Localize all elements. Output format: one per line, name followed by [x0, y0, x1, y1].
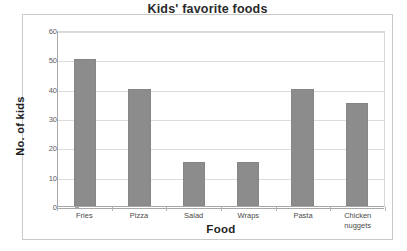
bar — [183, 162, 205, 206]
y-tick-label: 50 — [29, 56, 57, 65]
chart-title: Kids' favorite foods — [22, 2, 393, 16]
x-axis-title: Food — [57, 223, 385, 235]
bar-slot — [167, 32, 221, 206]
bar — [128, 89, 150, 206]
bar-slot — [112, 32, 166, 206]
bar — [237, 162, 259, 206]
y-tick-label: 10 — [29, 173, 57, 182]
bar-slot — [275, 32, 329, 206]
plot-area — [57, 31, 385, 207]
y-tick-label: 60 — [29, 27, 57, 36]
bar-slot — [221, 32, 275, 206]
y-tick-label: 0 — [29, 203, 57, 212]
y-tick-label: 40 — [29, 85, 57, 94]
bar — [346, 103, 368, 206]
bar — [291, 89, 313, 206]
bar — [74, 59, 96, 206]
y-tick-label: 30 — [29, 115, 57, 124]
x-tick-mark — [385, 207, 386, 211]
chart-figure: Kids' favorite foods No. of kids 0102030… — [0, 0, 407, 251]
y-axis-ticks: 0102030405060 — [22, 31, 57, 207]
bar-series — [58, 32, 384, 206]
y-tick-label: 20 — [29, 144, 57, 153]
bar-slot — [330, 32, 384, 206]
bar-slot — [58, 32, 112, 206]
